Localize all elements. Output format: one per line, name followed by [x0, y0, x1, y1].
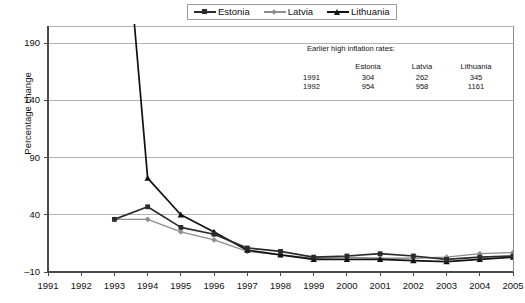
table-row: 1991 304 262 345	[303, 73, 503, 83]
chart-legend: Estonia Latvia Lithuania	[187, 4, 397, 20]
annotation-value-lithuania: 345	[449, 73, 503, 83]
annotation-col-estonia: Estonia	[341, 62, 395, 73]
annotation-col-blank	[303, 62, 341, 73]
annotation-year: 1992	[303, 82, 341, 92]
annotation-title: Earlier high inflation rates:	[303, 44, 503, 54]
y-axis-tick-label: 40	[10, 210, 40, 220]
annotation-header-row: Estonia Latvia Lithuania	[303, 62, 503, 73]
legend-label-estonia: Estonia	[217, 6, 250, 17]
estonia-series-icon	[194, 7, 216, 16]
y-axis-tick-label: 90	[10, 153, 40, 163]
annotation-box: Earlier high inflation rates: Estonia La…	[303, 44, 503, 92]
annotation-col-latvia: Latvia	[395, 62, 449, 73]
legend-item-estonia[interactable]: Estonia	[194, 6, 250, 17]
annotation-year: 1991	[303, 73, 341, 83]
y-axis-tick-label: 140	[10, 95, 40, 105]
y-axis-tick-label: –10	[10, 267, 40, 277]
table-row: 1992 954 958 1161	[303, 82, 503, 92]
annotation-value-estonia: 954	[341, 82, 395, 92]
latvia-series-icon	[264, 7, 286, 16]
annotation-value-estonia: 304	[341, 73, 395, 83]
legend-label-lithuania: Lithuania	[350, 6, 390, 17]
legend-item-latvia[interactable]: Latvia	[264, 6, 313, 17]
line-chart: Estonia Latvia Lithuania Percentage chan…	[0, 0, 525, 303]
annotation-col-lithuania: Lithuania	[449, 62, 503, 73]
legend-item-lithuania[interactable]: Lithuania	[327, 6, 390, 17]
y-axis-tick-label: 190	[10, 38, 40, 48]
annotation-table: Estonia Latvia Lithuania 1991 304 262 34…	[303, 62, 503, 92]
annotation-value-latvia: 958	[395, 82, 449, 92]
lithuania-series-icon	[327, 7, 349, 16]
legend-label-latvia: Latvia	[287, 6, 313, 17]
annotation-value-lithuania: 1161	[449, 82, 503, 92]
annotation-value-latvia: 262	[395, 73, 449, 83]
x-axis-tick-label: 2005	[493, 281, 525, 291]
